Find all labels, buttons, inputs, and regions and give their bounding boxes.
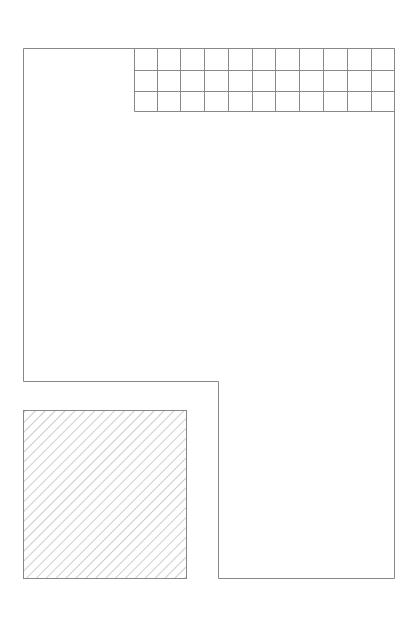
grid-table	[135, 49, 395, 112]
diagram-canvas	[0, 0, 416, 631]
hatched-box	[24, 411, 187, 579]
